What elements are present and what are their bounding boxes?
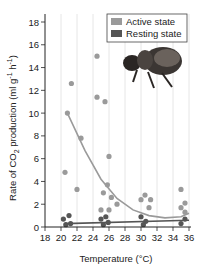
x-axis-label: Temperature (°C) xyxy=(80,253,153,264)
svg-text:8: 8 xyxy=(34,130,39,141)
svg-text:26: 26 xyxy=(104,232,115,243)
legend-swatch-resting xyxy=(111,30,122,37)
svg-text:4: 4 xyxy=(34,176,39,187)
legend-swatch-active xyxy=(111,18,122,25)
y-axis-label: Rate of CO2 production (ml g-1 h-1) xyxy=(6,55,20,201)
trend-lines xyxy=(65,113,189,224)
svg-text:6: 6 xyxy=(34,153,39,164)
svg-text:10: 10 xyxy=(28,108,39,119)
svg-text:34: 34 xyxy=(168,232,179,243)
svg-text:28: 28 xyxy=(120,232,131,243)
svg-text:18: 18 xyxy=(28,17,39,28)
svg-text:36: 36 xyxy=(184,232,195,243)
data-points xyxy=(61,54,188,228)
legend: Active state Resting state xyxy=(107,14,187,42)
vertical-gridlines xyxy=(61,14,189,227)
svg-text:30: 30 xyxy=(136,232,147,243)
svg-text:22: 22 xyxy=(72,232,83,243)
legend-label-active: Active state xyxy=(126,16,175,27)
svg-text:0: 0 xyxy=(34,222,39,233)
svg-text:20: 20 xyxy=(56,232,67,243)
svg-text:16: 16 xyxy=(28,39,39,50)
svg-text:32: 32 xyxy=(152,232,163,243)
svg-text:14: 14 xyxy=(28,62,39,73)
co2-scatter-chart: 18202224262830323436024681012141618 Acti… xyxy=(0,0,201,274)
svg-text:24: 24 xyxy=(88,232,99,243)
svg-text:18: 18 xyxy=(40,232,51,243)
legend-label-resting: Resting state xyxy=(126,28,181,39)
svg-text:2: 2 xyxy=(34,199,39,210)
svg-text:12: 12 xyxy=(28,85,39,96)
